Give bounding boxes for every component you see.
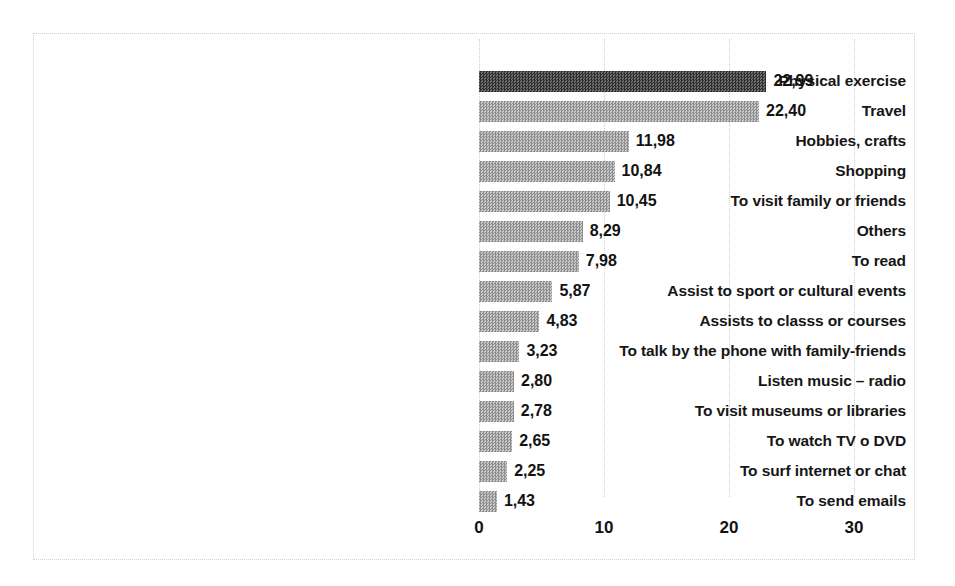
bar-row: Assist to sport or cultural events5,87: [34, 276, 914, 306]
bar: [479, 71, 766, 92]
x-axis: 0102030: [34, 519, 914, 545]
bar-row: Listen music – radio2,80: [34, 366, 914, 396]
bar-wrapper: 3,23: [479, 336, 558, 366]
bar-wrapper: 22,99: [479, 66, 813, 96]
bar-value-label: 3,23: [526, 343, 557, 359]
x-tick-label: 0: [474, 519, 483, 536]
bar-row: Others8,29: [34, 216, 914, 246]
bar: [479, 101, 759, 122]
bar: [479, 491, 497, 512]
bar-value-label: 8,29: [590, 223, 621, 239]
bar: [479, 461, 507, 482]
x-tick-label: 20: [720, 519, 739, 536]
bar-row: To surf internet or chat2,25: [34, 456, 914, 486]
bar-value-label: 2,65: [519, 433, 550, 449]
bar-wrapper: 2,80: [479, 366, 552, 396]
bar-value-label: 2,78: [521, 403, 552, 419]
bar-wrapper: 5,87: [479, 276, 591, 306]
bar-row: To talk by the phone with family-friends…: [34, 336, 914, 366]
bar-row: Hobbies, crafts11,98: [34, 126, 914, 156]
bar-value-label: 4,83: [546, 313, 577, 329]
bar-wrapper: 2,65: [479, 426, 550, 456]
bar-row: To visit museums or libraries2,78: [34, 396, 914, 426]
chart-frame: Physical exercise22,99Travel22,40Hobbies…: [33, 33, 915, 560]
bar: [479, 251, 579, 272]
bar: [479, 341, 519, 362]
bar-row: To watch TV o DVD2,65: [34, 426, 914, 456]
bar-row: To send emails1,43: [34, 486, 914, 516]
bar-row: To visit family or friends10,45: [34, 186, 914, 216]
bar-value-label: 10,84: [622, 163, 662, 179]
bar-wrapper: 4,83: [479, 306, 578, 336]
bar-wrapper: 11,98: [479, 126, 675, 156]
bar-wrapper: 22,40: [479, 96, 806, 126]
bar-wrapper: 2,78: [479, 396, 552, 426]
bar: [479, 311, 539, 332]
bar-value-label: 10,45: [617, 193, 657, 209]
bar: [479, 221, 583, 242]
bar: [479, 161, 615, 182]
bar: [479, 131, 629, 152]
category-label: To send emails: [477, 493, 914, 509]
bar-value-label: 22,40: [766, 103, 806, 119]
bar-value-label: 22,99: [773, 73, 813, 89]
bar: [479, 431, 512, 452]
bar-value-label: 2,25: [514, 463, 545, 479]
bar-value-label: 2,80: [521, 373, 552, 389]
bar-value-label: 5,87: [559, 283, 590, 299]
bar-wrapper: 10,45: [479, 186, 657, 216]
x-tick-label: 30: [845, 519, 864, 536]
bar-row: Physical exercise22,99: [34, 66, 914, 96]
bar-wrapper: 7,98: [479, 246, 617, 276]
bar: [479, 281, 552, 302]
bar: [479, 401, 514, 422]
bar-row: Shopping10,84: [34, 156, 914, 186]
bar-wrapper: 1,43: [479, 486, 535, 516]
bar-wrapper: 2,25: [479, 456, 545, 486]
bar: [479, 191, 610, 212]
x-tick-label: 10: [595, 519, 614, 536]
plot-area: Physical exercise22,99Travel22,40Hobbies…: [34, 34, 914, 559]
bar: [479, 371, 514, 392]
bar-row: Assists to classs or courses4,83: [34, 306, 914, 336]
bar-value-label: 1,43: [504, 493, 535, 509]
bar-wrapper: 10,84: [479, 156, 662, 186]
bar-wrapper: 8,29: [479, 216, 621, 246]
bar-row: Travel22,40: [34, 96, 914, 126]
bar-row: To read7,98: [34, 246, 914, 276]
bar-value-label: 7,98: [586, 253, 617, 269]
bar-value-label: 11,98: [636, 133, 675, 149]
